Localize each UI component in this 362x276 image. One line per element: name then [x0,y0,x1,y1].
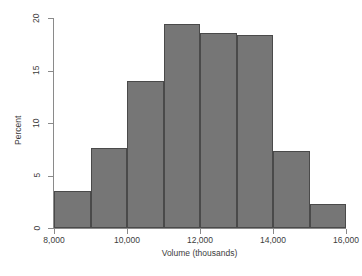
x-axis-tick-label: 14,000 [243,236,303,245]
histogram-bar [127,81,164,228]
histogram-bar [310,204,347,228]
y-axis-tick-label: 20 [30,6,44,30]
plot-area [54,18,346,228]
y-axis-tick [48,71,53,72]
y-axis-tick-label-text: 20 [33,13,42,22]
x-axis-tick [346,229,347,234]
y-axis-tick-label-text: 5 [33,173,42,178]
y-axis-tick [48,123,53,124]
y-axis-tick-label: 5 [30,164,44,188]
histogram-figure: Percent Volume (thousands) 05101520 8,00… [0,0,362,276]
y-axis-tick [48,176,53,177]
y-axis-tick-label: 10 [30,111,44,135]
x-axis-tick [273,229,274,234]
histogram-bar [273,151,310,228]
y-axis-tick [48,228,53,229]
histogram-bar [200,33,237,228]
histogram-bar [54,191,91,228]
histogram-bar [237,35,274,228]
x-axis-tick-label: 12,000 [170,236,230,245]
x-axis-tick-label: 8,000 [24,236,84,245]
y-axis-tick-label-text: 15 [33,66,42,75]
y-axis-title: Percent [12,100,26,160]
x-axis-tick [200,229,201,234]
y-axis-title-label: Percent [15,115,24,144]
y-axis-tick-label-text: 10 [33,118,42,127]
y-axis-tick-label: 15 [30,59,44,83]
histogram-bar [164,24,201,228]
x-axis-tick [54,229,55,234]
x-axis-tick [127,229,128,234]
x-axis-tick-label: 10,000 [97,236,157,245]
x-axis-tick-label: 16,000 [316,236,362,245]
x-axis-title: Volume (thousands) [53,249,346,258]
histogram-bar [91,148,128,228]
y-axis-tick [48,18,53,19]
y-axis-tick-label-text: 0 [33,226,42,231]
